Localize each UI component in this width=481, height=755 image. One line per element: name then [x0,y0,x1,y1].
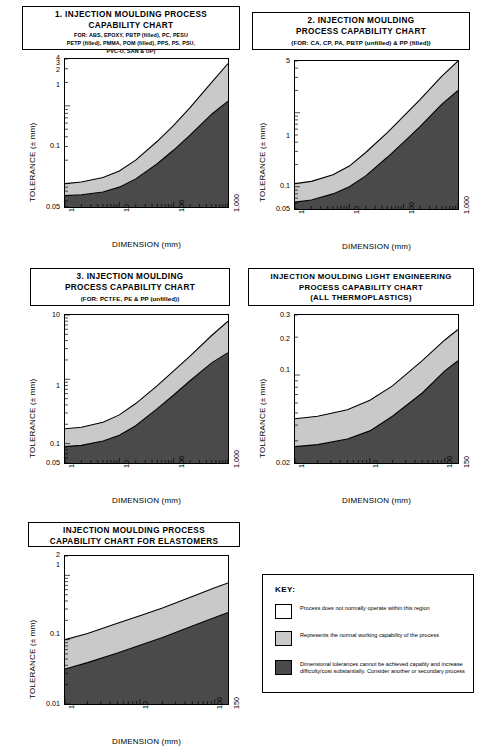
chart-panel-4: INJECTION MOULDING LIGHT ENGINEERING PRO… [248,268,474,516]
chart-1-subtitle-line1: FOR: ABS, EPOXY, PBTP (filled), PC, PESU [25,32,237,39]
chart-3-ytick-0: 0.05 [30,458,60,467]
chart-5-ytick-3: 2 [30,550,60,559]
key-item-0: Process does not normally operate within… [275,604,465,620]
chart-5-xtick-0: 1 [67,705,76,709]
chart-1-plot-area [64,58,229,208]
key-heading: KEY: [275,585,296,594]
chart-4-title-line1: INJECTION MOULDING LIGHT ENGINEERING [251,272,471,283]
chart-3-graph: TOLERANCE (± mm) 0.05 0.1 1 10 1 10 100 … [22,306,240,516]
chart-panel-3: 3. INJECTION MOULDING PROCESS CAPABILITY… [30,268,230,516]
chart-5-x-axis-label: DIMENSION (mm) [64,737,229,746]
chart-2-xtick-2: 100 [407,202,416,214]
chart-1-xtick-0: 1 [67,208,76,212]
chart-1-title-line2: CAPABILITY CHART [25,21,237,32]
chart-2-title-box: 2. INJECTION MOULDING PROCESS CAPABILITY… [252,12,470,50]
chart-5-xtick-2: 100 [215,697,224,709]
chart-5-title-box: INJECTION MOULDING PROCESS CAPABILITY CH… [28,522,240,547]
chart-3-xtick-1: 10 [122,460,131,468]
chart-4-xtick-1: 10 [371,460,380,468]
key-item-2: Dimensional tolerances cannot be achieve… [275,660,465,676]
chart-2-ytick-2: 1 [260,131,290,140]
chart-3-plot-area [64,314,229,464]
chart-5-title-line1: INJECTION MOULDING PROCESS [31,526,237,537]
chart-3-ytick-1: 0.1 [30,439,60,448]
chart-1-ytick-5: 4 [30,53,60,62]
chart-2-x-axis-label: DIMENSION (mm) [294,242,459,251]
chart-4-title-line2: PROCESS CAPABILITY CHART [251,283,471,294]
chart-2-xtick-0: 1 [297,210,306,214]
chart-5-ytick-0: 0.01 [30,699,60,708]
chart-2-xtick-1: 10 [352,206,361,214]
chart-1-x-axis-label: DIMENSION (mm) [64,240,229,249]
chart-1-title-box: 1. INJECTION MOULDING PROCESS CAPABILITY… [22,6,240,50]
chart-5-ytick-2: 1 [30,560,60,569]
chart-panel-2: 2. INJECTION MOULDING PROCESS CAPABILITY… [252,12,470,262]
chart-1-xtick-1: 10 [122,204,131,212]
chart-2-plot-area [294,60,459,210]
chart-2-graph: TOLERANCE (± mm) 0.05 0.1 1 5 1 10 100 1… [252,50,470,262]
chart-panel-5: INJECTION MOULDING PROCESS CAPABILITY CH… [28,522,240,754]
chart-3-xtick-2: 100 [177,456,186,468]
chart-4-xtick-2: 100 [445,456,454,468]
chart-2-ytick-1: 0.1 [260,181,290,190]
chart-1-ytick-0: 0.05 [30,202,60,211]
key-legend-box: KEY: Process does not normally operate w… [262,574,474,693]
chart-5-ytick-1: 0.1 [30,629,60,638]
chart-5-xtick-1: 10 [141,701,150,709]
chart-panel-1: 1. INJECTION MOULDING PROCESS CAPABILITY… [22,6,240,261]
capability-charts-sheet: 1. INJECTION MOULDING PROCESS CAPABILITY… [0,0,481,755]
chart-3-title-line1: 3. INJECTION MOULDING [33,272,227,283]
chart-3-title-box: 3. INJECTION MOULDING PROCESS CAPABILITY… [30,268,230,306]
chart-1-ytick-2: 1 [30,80,60,89]
chart-5-plot-area [64,555,229,705]
chart-1-xtick-3: 1,000 [232,194,241,212]
chart-2-ytick-0: 0.05 [260,204,290,213]
chart-1-subtitle-line2: PETP (filled), PMMA, POM (filled), PPS, … [25,40,237,47]
chart-1-title-line1: 1. INJECTION MOULDING PROCESS [25,10,237,21]
key-label-2: Dimensional tolerances cannot be achieve… [300,661,478,676]
chart-4-xtick-3: 150 [462,456,471,468]
chart-3-xtick-0: 1 [67,464,76,468]
chart-4-title-line3: (ALL THERMOPLASTICS) [251,293,471,304]
chart-2-ytick-3: 5 [260,56,290,65]
chart-5-xtick-3: 150 [232,697,241,709]
chart-1-y-axis-label: TOLERANCE (± mm) [28,123,37,202]
key-swatch-dark [275,660,292,675]
chart-4-x-axis-label: DIMENSION (mm) [294,496,459,505]
chart-2-xtick-3: 1,000 [462,196,471,214]
chart-2-subtitle-line1: (FOR: CA, CP, PA, PBTP (unfilled) & PP (… [255,39,467,47]
chart-3-title-line2: PROCESS CAPABILITY CHART [33,283,227,294]
chart-4-graph: TOLERANCE (± mm) 0.02 0.1 0.2 0.3 1 10 1… [252,306,470,516]
chart-1-xtick-2: 100 [177,200,186,212]
chart-4-ytick-1: 0.1 [260,365,290,374]
key-swatch-white [275,604,292,619]
chart-3-xtick-3: 1,000 [232,450,241,468]
chart-4-title-box: INJECTION MOULDING LIGHT ENGINEERING PRO… [248,268,474,306]
chart-4-ytick-3: 0.3 [260,310,290,319]
key-item-1: Represents the normal working capability… [275,631,465,647]
chart-2-title-line1: 2. INJECTION MOULDING [255,16,467,27]
chart-4-xtick-0: 1 [297,464,306,468]
chart-1-graph: TOLERANCE (± mm) 0.05 0.1 1 2 3 4 1 10 1… [22,50,240,261]
chart-3-ytick-3: 10 [30,310,60,319]
chart-5-graph: TOLERANCE (± mm) 0.01 0.1 1 2 1 10 100 1… [22,547,240,754]
chart-2-title-line2: PROCESS CAPABILITY CHART [255,27,467,38]
chart-5-title-line2: CAPABILITY CHART FOR ELASTOMERS [31,537,237,548]
chart-4-ytick-2: 0.2 [260,334,290,343]
key-label-0: Process does not normally operate within… [300,605,478,612]
key-label-1: Represents the normal working capability… [300,632,478,639]
key-swatch-gray [275,631,292,646]
chart-3-subtitle-line1: (FOR: PCTFE, PE & PP (unfilled)) [33,295,227,303]
chart-3-ytick-2: 1 [30,381,60,390]
chart-4-plot-area [294,314,459,464]
chart-1-ytick-1: 0.1 [30,141,60,150]
chart-4-ytick-0: 0.02 [260,458,290,467]
chart-3-x-axis-label: DIMENSION (mm) [64,496,229,505]
chart-4-y-axis-label: TOLERANCE (± mm) [258,379,267,458]
